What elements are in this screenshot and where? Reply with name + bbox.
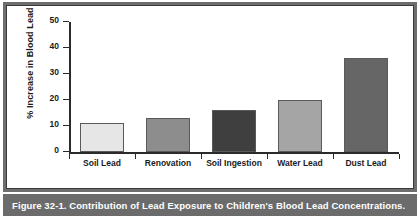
chart-frame: % Increase in Blood Lead 01020304050 Soi… — [3, 2, 417, 192]
y-axis-tick-label: 50 — [50, 15, 59, 25]
y-axis-tick-label: 40 — [50, 41, 59, 51]
x-axis-label-dust-lead: Dust Lead — [333, 158, 399, 168]
y-axis-tick: 10 — [63, 125, 69, 126]
figure-caption-text: Figure 32-1. Contribution of Lead Exposu… — [12, 200, 405, 211]
y-axis-tick-label: 30 — [50, 67, 59, 77]
figure-caption-bar: Figure 32-1. Contribution of Lead Exposu… — [3, 194, 417, 216]
y-axis-tick-label: 10 — [50, 119, 59, 129]
x-axis-label-water-lead: Water Lead — [267, 158, 333, 168]
x-axis-labels: Soil LeadRenovationSoil IngestionWater L… — [69, 158, 399, 174]
y-axis-tick: 50 — [63, 21, 69, 22]
x-axis-label-renovation: Renovation — [135, 158, 201, 168]
bar-soil-lead — [80, 123, 124, 152]
figure-container: % Increase in Blood Lead 01020304050 Soi… — [0, 0, 420, 224]
plot-area: 01020304050 — [69, 22, 399, 154]
x-axis-label-soil-lead: Soil Lead — [69, 158, 135, 168]
y-axis-tick: 20 — [63, 99, 69, 100]
bar-series — [71, 22, 399, 152]
bar-dust-lead — [344, 58, 388, 152]
y-axis-tick-label: 0 — [54, 145, 59, 155]
bar-soil-ingestion — [212, 110, 256, 152]
y-axis-tick: 0 — [63, 151, 69, 152]
x-axis-label-soil-ingestion: Soil Ingestion — [201, 158, 267, 168]
y-axis-tick: 40 — [63, 47, 69, 48]
chart-inner-border: % Increase in Blood Lead 01020304050 Soi… — [6, 5, 414, 189]
y-axis-tick: 30 — [63, 73, 69, 74]
bar-renovation — [146, 118, 190, 152]
bar-water-lead — [278, 100, 322, 152]
y-axis-tick-label: 20 — [50, 93, 59, 103]
y-axis-title: % Increase in Blood Lead — [25, 0, 35, 128]
x-axis-tick — [399, 154, 400, 159]
